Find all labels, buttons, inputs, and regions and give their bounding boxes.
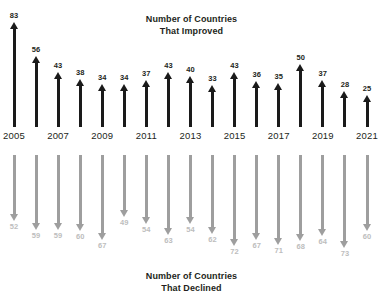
arrow-down-shaft (123, 155, 126, 210)
arrow-down-shaft (277, 155, 280, 238)
title-declined-line2: That Declined (0, 282, 383, 294)
arrow-down-shaft (145, 155, 148, 217)
arrow-down-shaft (366, 155, 369, 224)
arrow-down-shaft (57, 155, 60, 223)
arrow-down-shaft (255, 155, 258, 233)
arrow-down-shaft (79, 155, 82, 224)
arrow-down-shaft (13, 155, 16, 214)
arrow-down-shaft (167, 155, 170, 228)
arrow-down-shaft (343, 155, 346, 241)
diverging-arrow-chart: Number of Countries That Improved 835220… (0, 0, 383, 300)
title-declined-line1: Number of Countries (0, 270, 383, 282)
arrow-down-shaft (101, 155, 104, 233)
arrow-down-shaft (189, 155, 192, 217)
arrow-down-2021: 60 (347, 0, 383, 300)
arrow-down-shaft (211, 155, 214, 227)
arrow-down-head-icon (363, 224, 371, 231)
chart-title-declined: Number of Countries That Declined (0, 270, 383, 294)
arrow-down-shaft (35, 155, 38, 223)
axis-tick-2021: 2021 (347, 130, 383, 141)
arrow-down-shaft (299, 155, 302, 234)
arrow-down-shaft (233, 155, 236, 239)
arrow-down-shaft (321, 155, 324, 229)
value-label-declined-2021: 60 (352, 232, 382, 241)
